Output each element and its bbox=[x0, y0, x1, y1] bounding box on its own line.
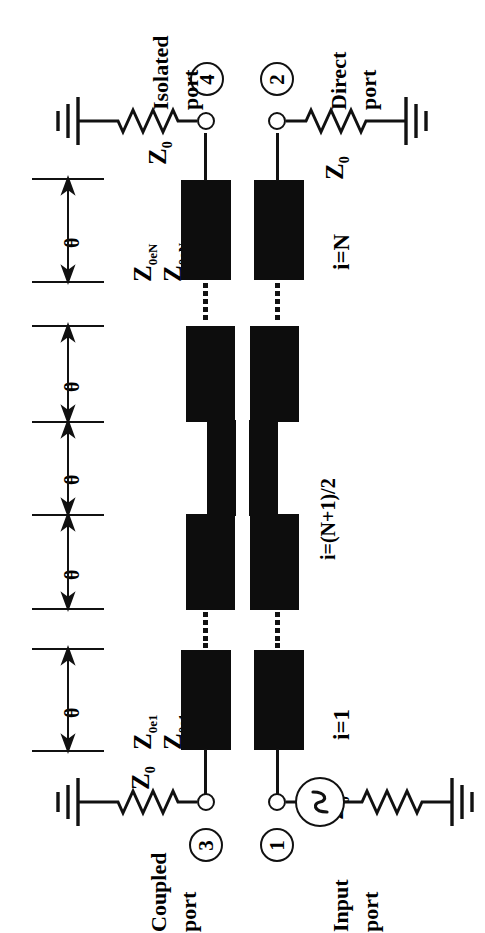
termination-label-z0-port4: Z0 bbox=[145, 141, 175, 165]
port-circle-1[interactable]: 1 bbox=[260, 828, 294, 862]
coupled-line-bar-left-1 bbox=[181, 650, 231, 750]
theta-tick-line bbox=[32, 325, 104, 327]
theta-arrows-overlay bbox=[0, 0, 485, 933]
port-node-4[interactable] bbox=[197, 112, 215, 130]
theta-tick-line bbox=[32, 648, 104, 650]
theta-label: θ bbox=[62, 570, 82, 580]
theta-label: θ bbox=[62, 238, 82, 248]
z0-sub: 0 bbox=[143, 766, 158, 773]
port-node-3[interactable] bbox=[197, 793, 215, 811]
figure-canvas: θ θ θ θ θ bbox=[0, 0, 485, 933]
termination-label-z0-port2: Z0 bbox=[322, 156, 352, 180]
port-label-4-line1: Isolated bbox=[150, 35, 172, 110]
impedance-base: Z bbox=[129, 265, 156, 282]
theta-tick-line bbox=[32, 608, 104, 610]
theta-tick-line bbox=[32, 421, 104, 423]
port-number-3: 3 bbox=[196, 840, 217, 851]
impedance-sub: 0e1 bbox=[145, 715, 160, 734]
ellipsis-bottom-right bbox=[275, 612, 281, 650]
lead-wire-port3 bbox=[204, 749, 207, 797]
theta-tick-line bbox=[32, 178, 104, 180]
port-label-1-line2: port bbox=[360, 892, 382, 932]
ellipsis-bottom-left bbox=[203, 612, 209, 650]
port-node-1[interactable] bbox=[268, 793, 286, 811]
resistor-z0-port1 bbox=[356, 791, 428, 813]
theta-label: θ bbox=[62, 475, 82, 485]
theta-label: θ bbox=[62, 382, 82, 392]
impedance-base: Z bbox=[129, 733, 156, 750]
port-label-3-line2: port bbox=[178, 892, 200, 932]
impedance-sub: 0eN bbox=[145, 244, 160, 266]
port-label-2-line2: port bbox=[358, 70, 380, 110]
circuit-overlay bbox=[0, 0, 485, 933]
impedance-label-z0eN: Z0eN bbox=[130, 244, 159, 282]
z0-base: Z bbox=[321, 163, 348, 180]
z0-base: Z bbox=[144, 148, 171, 165]
ac-source-icon bbox=[295, 777, 345, 827]
theta-label: θ bbox=[62, 708, 82, 718]
coupled-line-bar-left-mid-upper bbox=[186, 326, 235, 422]
impedance-label-z0e1: Z0e1 bbox=[130, 715, 159, 750]
port-label-4-line2: port bbox=[180, 70, 202, 110]
z0-sub: 0 bbox=[160, 141, 175, 148]
coupled-line-bar-right-mid-center bbox=[249, 420, 278, 516]
coupled-line-bar-right-1 bbox=[254, 650, 304, 750]
section-label-N: i=N bbox=[330, 234, 353, 270]
port-circle-2[interactable]: 2 bbox=[260, 62, 294, 96]
theta-tick-line bbox=[32, 750, 104, 752]
coupled-line-bar-right-mid-lower bbox=[250, 514, 299, 610]
resistor-z0-port3 bbox=[112, 791, 184, 813]
coupled-line-bar-left-mid-center bbox=[207, 420, 236, 516]
ellipsis-top-left bbox=[203, 283, 209, 325]
section-label-1: i=1 bbox=[330, 709, 353, 740]
port-node-2[interactable] bbox=[268, 112, 286, 130]
coupled-line-bar-left-mid-lower bbox=[186, 514, 235, 610]
termination-label-z0-port3: Z0 bbox=[128, 766, 158, 790]
port-number-2: 2 bbox=[267, 74, 288, 85]
lead-wire-port1 bbox=[276, 749, 279, 797]
resistor-z0-port4 bbox=[112, 110, 184, 132]
z0-sub: 0 bbox=[337, 156, 352, 163]
lead-wire-port2 bbox=[276, 133, 279, 181]
port-label-1-line1: Input bbox=[330, 879, 352, 932]
ellipsis-top-right bbox=[275, 283, 281, 325]
z0-base: Z bbox=[127, 773, 154, 790]
theta-tick-line bbox=[32, 514, 104, 516]
coupled-line-bar-right-mid-upper bbox=[250, 326, 299, 422]
lead-wire-port4 bbox=[204, 133, 207, 181]
coupled-line-bar-right-N bbox=[254, 180, 304, 280]
coupled-line-bar-left-N bbox=[181, 180, 231, 280]
section-label-middle: i=(N+1)/2 bbox=[318, 478, 338, 560]
port-label-2-line1: Direct bbox=[328, 52, 350, 110]
port-number-1: 1 bbox=[267, 840, 288, 851]
theta-tick-line bbox=[32, 281, 104, 283]
port-label-3-line1: Coupled bbox=[148, 853, 170, 932]
port-circle-3[interactable]: 3 bbox=[189, 828, 223, 862]
resistor-z0-port2 bbox=[300, 110, 372, 132]
